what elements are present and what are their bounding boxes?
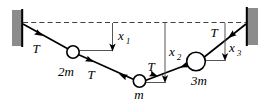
displacement-x3-base: x [228, 40, 235, 55]
mass-3m-body [187, 52, 206, 71]
tension-label-2m-to-m: T [87, 67, 95, 82]
tension-label-3m-to-right-wall: T [210, 25, 218, 40]
tension-arrowhead-m-toward-2m [85, 56, 95, 65]
displacement-label-x1: x 1 [117, 28, 130, 46]
displacement-x1-base: x [117, 28, 124, 43]
mass-2m-body [67, 46, 79, 58]
displacement-label-x2: x 2 [168, 44, 182, 62]
mass-label-m: m [134, 87, 143, 102]
mass-m-body [133, 75, 145, 87]
mass-label-2m: 2m [58, 64, 74, 79]
displacement-x2-subscript: 2 [177, 52, 182, 62]
displacement-x3-subscript: 3 [236, 48, 241, 58]
mass-label-3m: 3m [190, 73, 207, 88]
diagram-canvas: T T T T 2m m 3m x 1 x 2 x 3 [0, 0, 269, 105]
left-wall-body [12, 10, 22, 46]
tension-label-m-to-3m: T [147, 59, 155, 74]
displacement-label-x3: x 3 [228, 40, 241, 58]
right-wall [246, 7, 258, 46]
right-wall-face-edge [246, 7, 248, 46]
right-wall-body [247, 8, 258, 45]
displacement-x2-base: x [168, 44, 175, 59]
physics-diagram-figure: T T T T 2m m 3m x 1 x 2 x 3 [0, 0, 269, 105]
displacement-x1-subscript: 1 [126, 36, 130, 46]
left-wall [12, 9, 23, 47]
string-left-wall-to-2m [23, 24, 70, 50]
tension-label-left-wall-to-2m: T [32, 41, 40, 56]
left-wall-face-edge [21, 9, 23, 47]
